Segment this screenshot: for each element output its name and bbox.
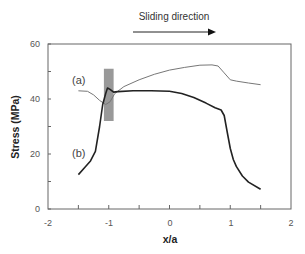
y-tick-label: 60 <box>30 39 40 49</box>
x-axis-ticks <box>78 205 260 209</box>
x-tick-label: 0 <box>167 218 172 228</box>
stress-chart: Sliding direction 0 20 40 60 -2 -1 0 1 2… <box>0 0 305 254</box>
sliding-direction-label: Sliding direction <box>139 11 210 22</box>
y-tick-label: 40 <box>30 94 40 104</box>
sliding-direction-arrow-icon <box>133 29 216 36</box>
plot-frame <box>48 44 291 209</box>
series-b-label: (b) <box>72 147 85 159</box>
y-tick-label: 0 <box>35 204 40 214</box>
x-tick-label: -2 <box>44 218 52 228</box>
x-tick-label: 1 <box>228 218 233 228</box>
x-axis-title: x/a <box>163 233 178 245</box>
y-tick-label: 20 <box>30 149 40 159</box>
y-axis-title: Stress (MPa) <box>9 95 21 159</box>
x-tick-label: -1 <box>105 218 113 228</box>
x-tick-label: 2 <box>288 218 293 228</box>
series-a-label: (a) <box>72 74 85 86</box>
